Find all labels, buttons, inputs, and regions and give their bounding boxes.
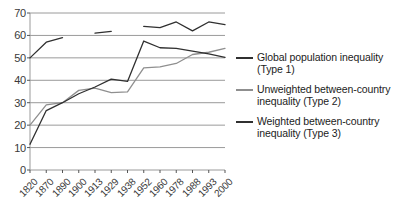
x-axis-labels: 1820187018901900191319291938195219601978… <box>0 0 232 206</box>
legend-swatch-icon <box>236 121 253 123</box>
legend-swatch-icon <box>236 57 253 59</box>
legend-item[interactable]: Weighted between-country inequality (Typ… <box>236 116 395 139</box>
legend-label: Global population inequality (Type 1) <box>257 52 395 75</box>
legend-item[interactable]: Unweighted between-country inequality (T… <box>236 84 395 107</box>
plot-area: 010203040506070 182018701890190019131929… <box>0 0 232 206</box>
legend-item[interactable]: Global population inequality (Type 1) <box>236 52 395 75</box>
legend-swatch-icon <box>236 89 253 91</box>
chart-figure: 010203040506070 182018701890190019131929… <box>0 0 395 206</box>
chart-legend: Global population inequality (Type 1)Unw… <box>236 52 395 148</box>
legend-label: Weighted between-country inequality (Typ… <box>257 116 395 139</box>
legend-label: Unweighted between-country inequality (T… <box>257 84 395 107</box>
